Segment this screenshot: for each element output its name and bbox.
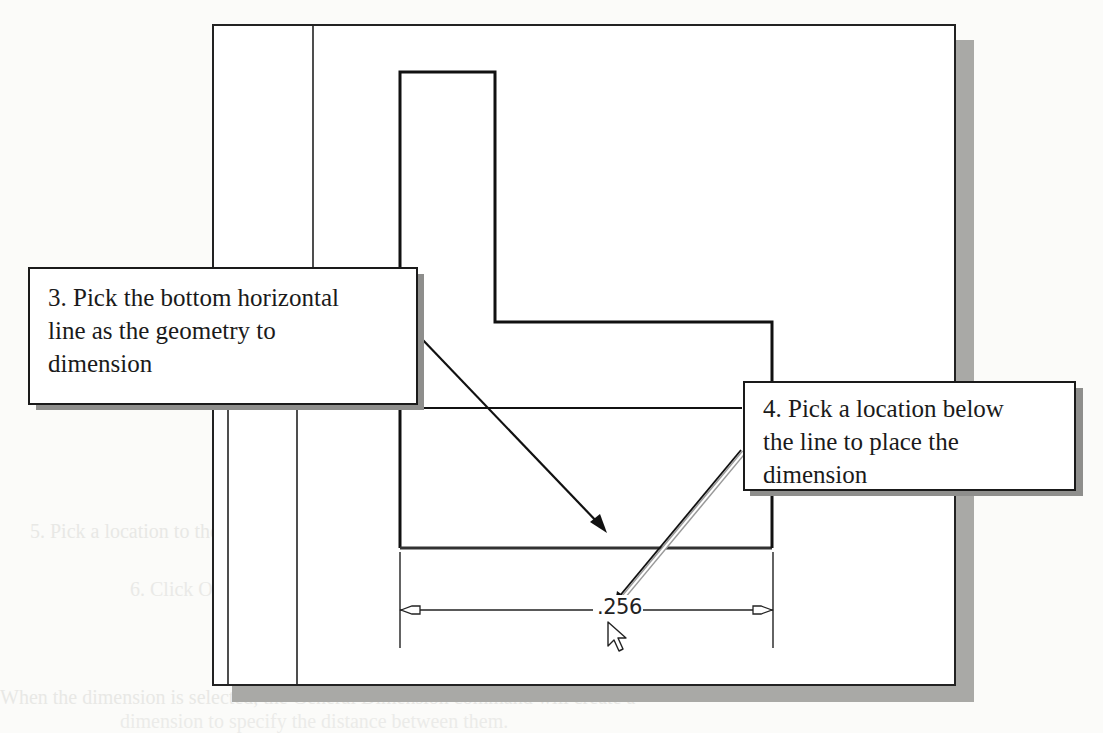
callout-step-4-line-2: the line to place the — [763, 425, 1056, 458]
callout-step-4-line-3: dimension — [763, 458, 1056, 491]
dimension-arrowhead-right-icon — [753, 606, 772, 614]
profile-upper-outline[interactable] — [400, 72, 772, 408]
callout-step-3: 3. Pick the bottom horizontal line as th… — [28, 267, 418, 405]
callout-step-3-line-1: 3. Pick the bottom horizontal — [48, 281, 398, 314]
callout-step-3-line-2: line as the geometry to — [48, 314, 398, 347]
leader-arrow-step-3-icon — [421, 338, 607, 533]
callout-step-4: 4. Pick a location below the line to pla… — [743, 381, 1076, 491]
dimension-arrowhead-left-icon — [401, 606, 420, 614]
callout-step-4-line-1: 4. Pick a location below — [763, 392, 1056, 425]
callout-step-3-line-3: dimension — [48, 347, 398, 380]
leader-arrow-step-4-icon — [614, 450, 744, 611]
mouse-cursor-icon — [606, 620, 630, 656]
dimension-value[interactable]: .256 — [596, 595, 643, 619]
